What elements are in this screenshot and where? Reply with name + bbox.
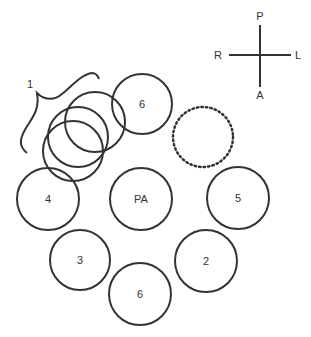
circle-label: 5 <box>235 192 241 204</box>
compass-label-bottom: A <box>256 89 264 101</box>
circle-left4: 4 <box>17 168 79 230</box>
circle-label: PA <box>134 193 149 205</box>
circle-top6: 6 <box>112 74 172 134</box>
cluster-label: 1 <box>27 78 33 90</box>
circle-label: 3 <box>77 254 83 266</box>
circle-label: 4 <box>45 193 51 205</box>
compass-label-right: L <box>295 49 301 61</box>
circle-bottom6: 6 <box>109 263 171 325</box>
circle-label: 2 <box>203 255 209 267</box>
circle-label: 6 <box>137 288 143 300</box>
circle-right5: 5 <box>207 167 269 229</box>
overlapping-cluster: 1 <box>21 73 125 181</box>
compass-label-left: R <box>214 49 222 61</box>
circle-right2: 2 <box>175 230 237 292</box>
compass-label-top: P <box>256 10 263 22</box>
orientation-compass: P R L A <box>214 10 301 101</box>
circle-label: 6 <box>139 98 145 110</box>
circle-center-pa: PA <box>110 168 172 230</box>
circle-left3: 3 <box>50 230 110 290</box>
diagram: P R L A 1 6 4 PA 5 3 2 6 <box>0 0 311 337</box>
dotted-circle-missing <box>173 107 233 167</box>
